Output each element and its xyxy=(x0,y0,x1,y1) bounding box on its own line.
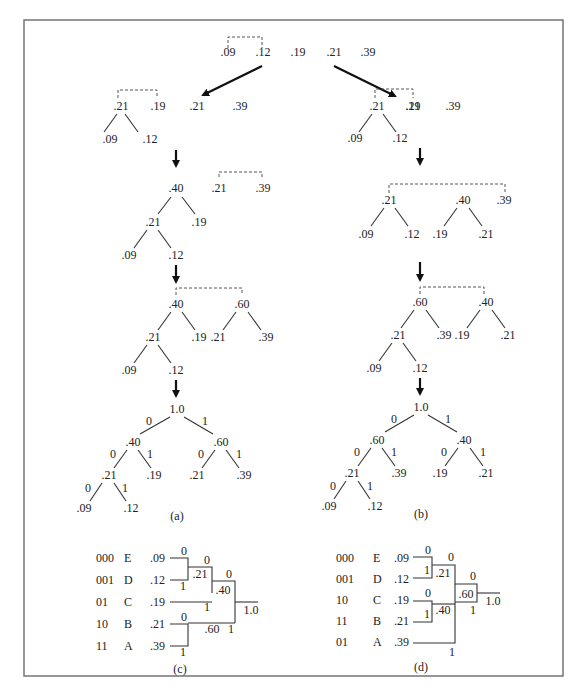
prob-label: .19 xyxy=(291,45,306,59)
svg-text:E: E xyxy=(124,551,131,565)
svg-text:.21: .21 xyxy=(102,468,117,482)
svg-text:.60: .60 xyxy=(235,297,250,311)
svg-text:0: 0 xyxy=(425,543,431,557)
svg-text:.60: .60 xyxy=(413,295,428,309)
svg-text:1: 1 xyxy=(367,479,373,493)
svg-text:.12: .12 xyxy=(124,501,139,515)
panel-a: .21 .19 .21 .39 .09 .12 .40 .21 .39 .21 … xyxy=(77,90,274,523)
svg-text:.60: .60 xyxy=(205,622,220,636)
svg-text:.19: .19 xyxy=(147,468,162,482)
svg-text:.12: .12 xyxy=(169,248,184,262)
caption-d: (d) xyxy=(414,660,428,674)
svg-text:.60: .60 xyxy=(214,435,229,449)
svg-text:01: 01 xyxy=(96,595,108,609)
svg-text:.12: .12 xyxy=(169,363,184,377)
svg-text:0: 0 xyxy=(198,447,204,461)
svg-text:1: 1 xyxy=(449,645,455,659)
svg-text:.40: .40 xyxy=(479,295,494,309)
svg-text:0: 0 xyxy=(146,414,152,428)
svg-text:.19: .19 xyxy=(455,328,470,342)
svg-text:.09: .09 xyxy=(348,131,363,145)
svg-text:0: 0 xyxy=(441,445,447,459)
svg-text:0: 0 xyxy=(391,412,397,426)
merge-bracket xyxy=(118,90,157,98)
svg-text:.21: .21 xyxy=(406,99,421,113)
svg-text:.12: .12 xyxy=(394,572,409,586)
svg-text:.21: .21 xyxy=(436,566,451,580)
svg-text:A: A xyxy=(373,635,382,649)
svg-text:1: 1 xyxy=(424,607,430,621)
svg-text:0: 0 xyxy=(425,586,431,600)
svg-text:.21: .21 xyxy=(146,330,161,344)
svg-text:.21: .21 xyxy=(391,328,406,342)
svg-text:.39: .39 xyxy=(150,639,165,653)
svg-text:.19: .19 xyxy=(433,466,448,480)
caption-c: (c) xyxy=(173,662,186,676)
caption-a: (a) xyxy=(170,509,183,523)
svg-text:.19: .19 xyxy=(192,330,207,344)
svg-text:.19: .19 xyxy=(150,595,165,609)
svg-text:.19: .19 xyxy=(151,99,166,113)
svg-text:11: 11 xyxy=(336,614,348,628)
svg-text:.12: .12 xyxy=(368,499,383,513)
panel-b: .21 .19 .21 .39 .09 .12 .21 .40 .39 .09 … xyxy=(322,89,516,521)
svg-text:B: B xyxy=(124,617,132,631)
panel-d: 000 E .09 001 D .12 10 C .19 11 B .21 01… xyxy=(336,543,501,674)
svg-text:C: C xyxy=(124,595,132,609)
svg-text:0: 0 xyxy=(110,447,116,461)
svg-text:.21: .21 xyxy=(370,99,385,113)
arrow-to-panel-b xyxy=(334,66,395,96)
svg-text:.21: .21 xyxy=(190,99,205,113)
svg-text:.39: .39 xyxy=(394,635,409,649)
svg-text:1: 1 xyxy=(122,481,128,495)
svg-text:.19: .19 xyxy=(192,215,207,229)
svg-text:.39: .39 xyxy=(446,99,461,113)
svg-text:1: 1 xyxy=(180,645,186,659)
svg-text:C: C xyxy=(373,593,381,607)
panel-c: 000 E .09 001 D .12 01 C .19 10 B .21 11… xyxy=(96,543,259,676)
svg-text:0: 0 xyxy=(448,550,454,564)
svg-text:1: 1 xyxy=(391,445,397,459)
svg-text:0: 0 xyxy=(226,567,232,581)
svg-text:.40: .40 xyxy=(436,603,451,617)
svg-text:1: 1 xyxy=(228,622,234,636)
svg-text:.09: .09 xyxy=(77,501,92,515)
svg-text:.40: .40 xyxy=(169,297,184,311)
svg-text:.12: .12 xyxy=(143,132,158,146)
svg-text:1.0: 1.0 xyxy=(414,400,429,414)
svg-text:000: 000 xyxy=(96,551,114,565)
svg-text:.39: .39 xyxy=(392,466,407,480)
svg-text:10: 10 xyxy=(96,617,108,631)
svg-text:D: D xyxy=(124,573,133,587)
svg-text:.09: .09 xyxy=(322,499,337,513)
svg-text:.09: .09 xyxy=(150,551,165,565)
svg-text:.21: .21 xyxy=(193,567,208,581)
svg-text:.12: .12 xyxy=(413,361,428,375)
svg-text:1: 1 xyxy=(147,447,153,461)
svg-text:.21: .21 xyxy=(146,215,161,229)
prob-label: .12 xyxy=(256,45,271,59)
svg-text:.21: .21 xyxy=(345,466,360,480)
svg-text:1: 1 xyxy=(202,414,208,428)
svg-text:1: 1 xyxy=(236,447,242,461)
svg-text:.21: .21 xyxy=(190,468,205,482)
svg-text:0: 0 xyxy=(85,481,91,495)
svg-text:0: 0 xyxy=(470,569,476,583)
svg-text:.21: .21 xyxy=(501,328,516,342)
svg-text:.39: .39 xyxy=(237,468,252,482)
svg-text:.12: .12 xyxy=(405,227,420,241)
svg-text:001: 001 xyxy=(336,572,354,586)
svg-text:.39: .39 xyxy=(259,330,274,344)
prob-label: .09 xyxy=(221,45,236,59)
svg-text:B: B xyxy=(373,614,381,628)
svg-text:E: E xyxy=(373,551,380,565)
svg-text:1: 1 xyxy=(445,412,451,426)
svg-text:.09: .09 xyxy=(122,363,137,377)
svg-text:10: 10 xyxy=(336,593,348,607)
svg-text:1: 1 xyxy=(470,603,476,617)
svg-text:.21: .21 xyxy=(479,227,494,241)
prob-label: .21 xyxy=(327,45,342,59)
svg-text:.21: .21 xyxy=(394,614,409,628)
svg-text:.09: .09 xyxy=(394,551,409,565)
svg-text:.39: .39 xyxy=(497,193,512,207)
